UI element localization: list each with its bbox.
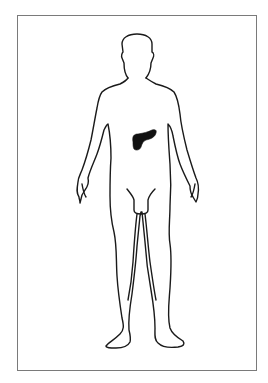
pancreas-organ: [133, 130, 157, 150]
head-outline: [122, 34, 154, 78]
groin-outline: [127, 189, 155, 214]
right-hand-detail: [191, 184, 195, 197]
body-diagram: [0, 0, 268, 383]
